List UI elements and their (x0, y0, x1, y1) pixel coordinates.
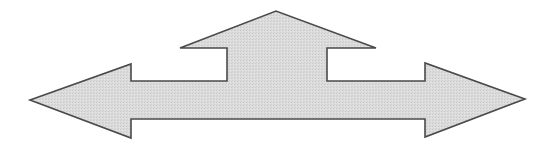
left-right-up-arrow-shape (30, 11, 525, 138)
diagram-canvas (0, 0, 559, 166)
